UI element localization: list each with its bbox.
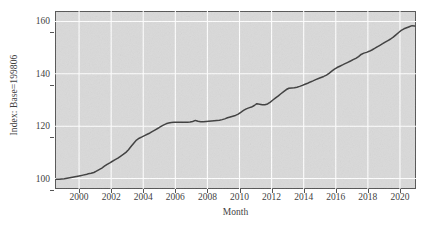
y-axis-label-text: Index: Base=199806 — [9, 55, 19, 136]
y-tick-label: 140 — [24, 69, 50, 79]
x-tick-mark — [111, 189, 112, 193]
x-tick-mark — [175, 189, 176, 193]
y-tick-label: 120 — [24, 121, 50, 131]
x-tick-label: 2020 — [380, 192, 420, 202]
x-axis-label: Month — [55, 207, 416, 217]
x-axis-tick-labels: 2000200220042006200820102012201420162018… — [55, 0, 416, 210]
x-tick-mark — [143, 189, 144, 193]
y-tick-mark — [50, 32, 54, 33]
x-tick-mark — [207, 189, 208, 193]
x-tick-mark — [400, 189, 401, 193]
y-tick-label: 100 — [24, 174, 50, 184]
y-tick-mark — [50, 137, 54, 138]
y-tick-mark — [50, 85, 54, 86]
x-tick-mark — [368, 189, 369, 193]
x-tick-mark — [240, 189, 241, 193]
x-tick-mark — [304, 189, 305, 193]
x-tick-mark — [79, 189, 80, 193]
chart-figure: Index: Base=199806 100120140160 20002002… — [0, 0, 426, 235]
x-tick-mark — [336, 189, 337, 193]
y-axis-tick-labels: 100120140160 — [20, 11, 50, 189]
y-tick-mark — [50, 190, 54, 191]
y-tick-label: 160 — [24, 16, 50, 26]
x-tick-mark — [272, 189, 273, 193]
